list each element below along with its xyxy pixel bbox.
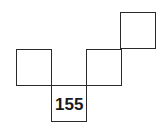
- square-bottom-label: 155: [55, 96, 83, 113]
- square-left: [16, 49, 52, 86]
- square-top-right: [120, 12, 156, 49]
- square-middle: [86, 49, 122, 86]
